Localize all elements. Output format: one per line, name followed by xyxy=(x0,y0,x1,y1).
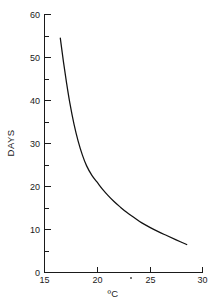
data-curve-development-time xyxy=(60,38,186,244)
y-tick-label-40: 40 xyxy=(30,96,40,106)
y-tick-label-50: 50 xyxy=(30,53,40,63)
x-tick-label-20: 20 xyxy=(92,275,102,285)
x-tick-label-25: 25 xyxy=(145,275,155,285)
chart-canvas: 0 10 20 30 40 50 60 15 20 25 30 ºC DAYS xyxy=(0,0,217,305)
y-tick-label-10: 10 xyxy=(30,225,40,235)
x-axis-major-ticks xyxy=(45,267,203,273)
print-speck-artifact xyxy=(130,277,132,279)
y-axis-title: DAYS xyxy=(5,130,16,157)
x-axis-title: ºC xyxy=(107,288,118,299)
y-tick-label-20: 20 xyxy=(30,182,40,192)
y-tick-label-60: 60 xyxy=(30,10,40,20)
y-axis-major-ticks xyxy=(45,15,51,273)
x-tick-label-15: 15 xyxy=(39,275,49,285)
y-tick-label-30: 30 xyxy=(30,139,40,149)
x-tick-label-30: 30 xyxy=(197,275,207,285)
chart-page: 0 10 20 30 40 50 60 15 20 25 30 ºC DAYS xyxy=(0,0,217,305)
